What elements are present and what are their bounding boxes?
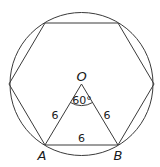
hexagon-diagram: O A B 60° 6 6 6 xyxy=(0,0,160,167)
diagram-canvas: O A B 60° 6 6 6 xyxy=(0,0,160,167)
length-label-OA: 6 xyxy=(52,109,59,122)
length-label-AB: 6 xyxy=(78,132,85,145)
point-label-O: O xyxy=(76,69,86,84)
angle-label: 60° xyxy=(72,94,92,107)
point-label-A: A xyxy=(37,148,47,163)
length-label-OB: 6 xyxy=(104,109,111,122)
point-label-B: B xyxy=(114,148,123,163)
